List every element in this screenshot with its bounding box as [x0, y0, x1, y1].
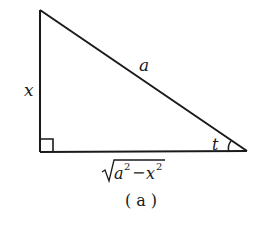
label-vertical-side: x [24, 80, 34, 100]
right-triangle-diagram: x a t a 2 − x 2 ( a ) [0, 0, 269, 242]
exponent-2: 2 [156, 161, 162, 172]
label-angle: t [212, 135, 219, 154]
minus-sign: − [132, 163, 145, 182]
radicand-x: x [146, 164, 155, 183]
radicand-a: a [114, 164, 124, 183]
label-hypotenuse: a [139, 55, 149, 75]
label-base-sqrt: a 2 − x 2 [102, 160, 165, 183]
figure-caption: ( a ) [125, 191, 157, 210]
right-angle-marker [40, 139, 53, 152]
hypotenuse-line [40, 10, 247, 151]
exponent-1: 2 [124, 161, 130, 172]
